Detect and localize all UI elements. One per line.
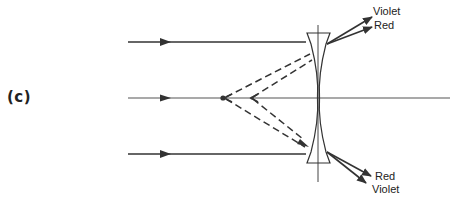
label-bottom-red: Red [375,170,395,182]
arrowhead-icon [160,150,171,158]
label-top-red: Red [374,19,394,31]
incoming-ray-top [128,38,306,46]
diverging-red-ray-bottom [327,152,371,176]
label-top-violet: Violet [373,5,400,17]
optical-axis [128,95,450,102]
arrowhead-icon [160,95,171,102]
label-bottom-violet: Violet [372,183,399,195]
dashed-extension-lines [226,54,312,147]
diverging-violet-ray-bottom [327,152,366,183]
lens-diagram: Violet Red Red Violet [0,0,453,206]
incoming-ray-bottom [128,150,306,158]
diverging-red-ray-top [327,27,372,44]
diverging-violet-ray-top [327,17,372,44]
arrowhead-icon [160,38,171,46]
